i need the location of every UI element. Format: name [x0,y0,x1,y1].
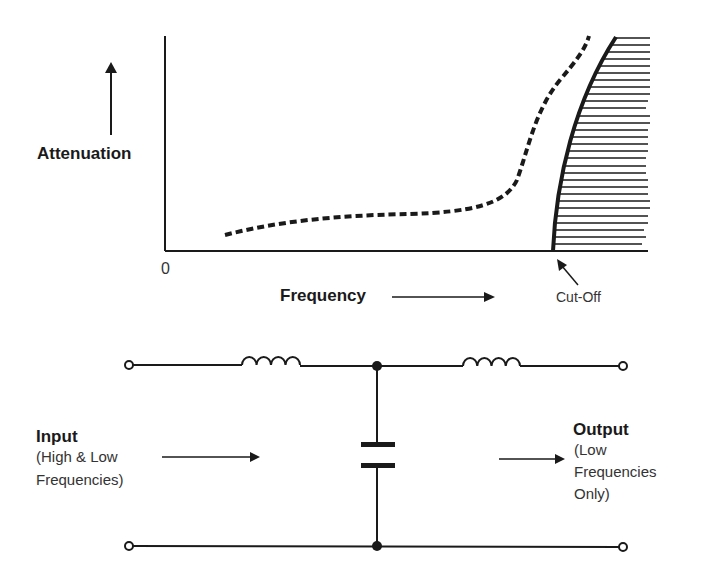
input-terminal-top [125,361,133,369]
circuit-wires [133,357,619,547]
input-desc-line1: (High & Low [36,449,118,466]
output-desc-line3: Only) [574,486,610,503]
output-terminal-bottom [619,543,627,551]
input-title: Input [36,428,78,447]
frequency-arrow-icon [392,292,495,302]
output-desc-line2: Frequencies [574,464,657,481]
y-axis-label: Attenuation [37,145,131,164]
x-axis-label: Frequency [280,287,366,306]
inductor-1-icon [242,357,300,365]
junction-bottom-dot [372,541,382,551]
input-arrow-icon [162,452,260,462]
cutoff-label: Cut-Off [556,290,601,305]
cutoff-pointer-arrow-icon [557,259,578,285]
input-desc-line2: Frequencies) [36,472,124,489]
output-terminal-top [619,362,627,370]
capacitor-icon [361,442,395,468]
output-desc-line1: (Low [574,442,607,459]
actual-response-curve [225,36,589,235]
inductor-2-icon [463,358,520,366]
attenuation-arrow-icon [105,62,117,135]
junction-top-dot [372,361,382,371]
origin-label: 0 [161,260,170,278]
input-terminal-bottom [125,542,133,550]
output-arrow-icon [499,454,565,464]
output-title: Output [573,421,629,440]
